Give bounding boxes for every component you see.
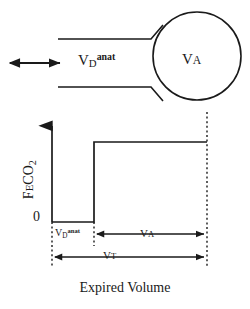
y-axis-tick-label-zero: 0 bbox=[33, 210, 40, 224]
boundary-lines bbox=[52, 112, 207, 268]
dead-space-span-label: VDanat bbox=[55, 228, 80, 240]
alveolar-volume-span-label-base: V bbox=[140, 227, 148, 239]
tidal-volume-span-label-sub: T bbox=[111, 251, 116, 261]
airway-dead-space-label: VDanat bbox=[78, 52, 115, 69]
alveolar-volume-label-sub: A bbox=[193, 54, 201, 67]
y-axis-label-smallcap: E bbox=[23, 185, 35, 192]
alveolar-volume-span-label: VA bbox=[140, 228, 154, 239]
y-axis-label-species: CO bbox=[21, 165, 36, 184]
airway-dead-space-label-sub: D bbox=[89, 57, 97, 69]
y-axis-label-lead: F bbox=[21, 191, 36, 199]
figure-caption: Expired Volume bbox=[0, 281, 250, 295]
y-axis-label: FECO2 bbox=[22, 141, 37, 219]
y-axis-label-subscript: 2 bbox=[27, 160, 38, 165]
expirogram-curve bbox=[52, 142, 207, 222]
alveolar-volume-span-label-sub: A bbox=[148, 229, 154, 239]
tidal-volume-span-label: VT bbox=[103, 250, 116, 261]
tidal-volume-span-label-base: V bbox=[103, 249, 111, 261]
airway-bottom-wall bbox=[58, 87, 163, 101]
figure-expirogram: VDanat VA FECO2 0 VDanat VA VT Expired V… bbox=[0, 0, 250, 309]
airway-top-wall bbox=[58, 25, 163, 39]
dead-space-span-label-sup: anat bbox=[67, 227, 79, 234]
alveolar-volume-label-base: V bbox=[182, 51, 193, 67]
alveolar-volume-label: VA bbox=[182, 52, 201, 67]
airway-dead-space-label-sup: anat bbox=[97, 51, 116, 62]
airway-dead-space-label-base: V bbox=[78, 52, 89, 68]
